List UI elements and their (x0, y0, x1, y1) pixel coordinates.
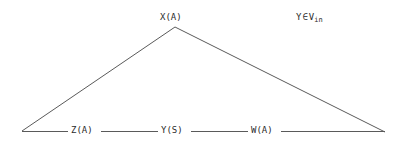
base-label-y: Y(S) (161, 125, 183, 136)
triangle-diagram (0, 0, 407, 146)
diagram-canvas: X(A) Z(A) Y(S) W(A) Y∈Vin (0, 0, 407, 146)
annotation-set-subscript: in (314, 16, 322, 24)
edge-apex-to-right (175, 27, 385, 132)
edge-left-to-apex (22, 27, 175, 131)
base-label-w: W(A) (251, 125, 273, 136)
apex-node-label: X(A) (160, 12, 182, 23)
element-of-icon: ∈ (301, 12, 308, 22)
base-label-z: Z(A) (71, 125, 93, 136)
membership-annotation: Y∈Vin (296, 12, 323, 26)
